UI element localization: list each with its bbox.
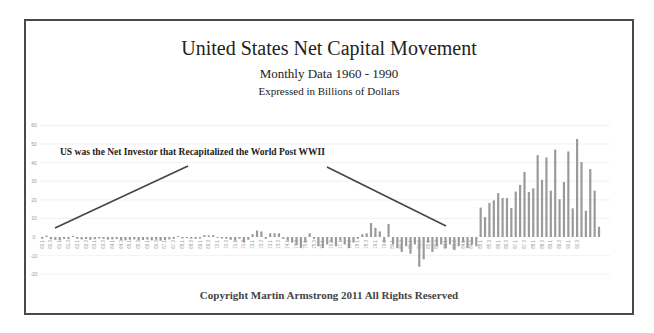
bar — [357, 237, 359, 239]
x-tick-label: 62.3 — [84, 240, 89, 249]
bar — [50, 237, 52, 239]
x-tick-label: 66.3 — [154, 240, 159, 249]
bar — [374, 228, 376, 237]
x-tick-label: 89.1 — [548, 240, 553, 249]
x-tick-label: 83.3 — [452, 240, 457, 249]
x-tick-label: 74.1 — [285, 240, 290, 249]
x-tick-label: 78.1 — [355, 240, 360, 249]
bar — [45, 236, 47, 237]
x-tick-label: 81.3 — [417, 240, 422, 249]
bar — [554, 150, 556, 237]
bar — [484, 217, 486, 237]
bar — [173, 237, 175, 239]
x-tick-label: 75.3 — [312, 240, 317, 249]
x-tick-label: 82.3 — [434, 240, 439, 249]
bar — [567, 151, 569, 237]
bar — [423, 237, 425, 259]
x-tick-label: 64.1 — [110, 240, 115, 249]
x-tick-label: 84.1 — [461, 240, 466, 249]
x-tick-label: 61.1 — [57, 240, 62, 249]
bar — [98, 237, 100, 238]
x-tick-label: 67.1 — [162, 240, 167, 249]
bar — [177, 236, 179, 237]
x-tick-label: 87.1 — [513, 240, 518, 249]
bar — [352, 237, 354, 243]
bar — [576, 139, 578, 237]
bar — [523, 172, 525, 237]
x-tick-label: 63.3 — [101, 240, 106, 249]
bar — [81, 237, 83, 239]
x-tick-label: 73.1 — [268, 240, 273, 249]
bar — [278, 233, 280, 237]
bar — [405, 237, 407, 246]
x-tick-label: 69.3 — [206, 240, 211, 249]
x-tick-label: 84.3 — [469, 240, 474, 249]
bar — [449, 237, 451, 244]
bar — [414, 237, 416, 244]
x-tick-label: 60.1 — [40, 240, 45, 249]
bar — [594, 191, 596, 237]
bar — [102, 237, 104, 239]
bar — [120, 237, 122, 240]
y-tick-label: -10 — [30, 253, 37, 259]
x-tick-label: 65.3 — [136, 240, 141, 249]
x-tick-label: 82.1 — [426, 240, 431, 249]
bar — [111, 237, 113, 239]
annotation-text: US was the Net Investor that Recapitaliz… — [60, 147, 325, 157]
bar — [54, 237, 56, 240]
x-tick-label: 88.1 — [531, 240, 536, 249]
x-tick-label: 78.3 — [364, 240, 369, 249]
bar — [506, 198, 508, 237]
bar — [497, 193, 499, 237]
bar — [309, 233, 311, 237]
bar — [203, 235, 205, 237]
bar — [344, 237, 346, 244]
bar — [396, 237, 398, 248]
y-tick-label: 0 — [33, 234, 36, 240]
x-tick-label: 63.1 — [92, 240, 97, 249]
x-tick-label: 66.1 — [145, 240, 150, 249]
x-tick-label: 90.1 — [566, 240, 571, 249]
x-tick-label: 65.1 — [127, 240, 132, 249]
x-axis: 60.160.361.161.362.162.363.163.364.164.3… — [40, 240, 580, 249]
y-axis: 6050403020100-10-20 — [30, 122, 37, 277]
bar — [515, 192, 517, 237]
x-tick-label: 89.3 — [557, 240, 562, 249]
bar — [142, 237, 144, 240]
bar — [379, 231, 381, 237]
x-tick-label: 72.1 — [250, 240, 255, 249]
bar — [510, 208, 512, 237]
x-tick-label: 88.3 — [540, 240, 545, 249]
y-tick-label: 10 — [31, 215, 37, 221]
x-tick-label: 70.1 — [215, 240, 220, 249]
bar — [190, 237, 192, 239]
bar — [558, 199, 560, 237]
bar — [572, 208, 574, 237]
x-tick-label: 77.1 — [338, 240, 343, 249]
bar — [598, 227, 600, 237]
bar — [282, 237, 284, 239]
bar — [67, 237, 69, 239]
bar — [59, 237, 61, 240]
bar — [532, 188, 534, 237]
bar — [195, 237, 197, 239]
x-tick-label: 85.1 — [478, 240, 483, 249]
bar — [466, 237, 468, 248]
y-tick-label: 40 — [31, 160, 37, 166]
bar — [545, 157, 547, 237]
bar — [168, 237, 170, 239]
x-tick-label: 62.1 — [75, 240, 80, 249]
bar — [519, 185, 521, 237]
x-tick-label: 75.1 — [303, 240, 308, 249]
bar — [41, 237, 43, 239]
x-tick-label: 76.3 — [329, 240, 334, 249]
x-tick-label: 68.3 — [189, 240, 194, 249]
bar — [129, 237, 131, 240]
bar — [550, 191, 552, 237]
x-tick-label: 80.1 — [390, 240, 395, 249]
bar — [387, 224, 389, 237]
x-tick-label: 79.1 — [373, 240, 378, 249]
x-tick-label: 72.3 — [259, 240, 264, 249]
x-tick-label: 90.3 — [575, 240, 580, 249]
bar — [528, 192, 530, 237]
